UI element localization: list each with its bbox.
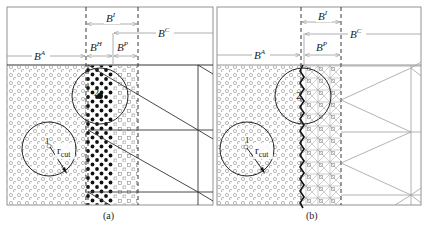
label-BP-b: BP	[316, 40, 328, 53]
panel-a: 2 1 rcut BI BC BA BH BP (a)	[7, 7, 213, 222]
caption-a: (a)	[103, 210, 114, 222]
panel-b: 2 1 rcut BI BC BA BP (b)	[217, 7, 421, 222]
atom1-label-a: 1	[45, 136, 50, 146]
label-BP-a: BP	[117, 40, 129, 53]
atom2-label-a: 2	[94, 87, 99, 98]
continuum-mesh-b	[341, 62, 421, 205]
pad-region-a	[113, 66, 138, 205]
atom1-label-b: 1	[245, 135, 250, 145]
handshake-region-a	[86, 66, 113, 205]
atom2-label-b: 2	[296, 90, 301, 101]
label-BH-a: BH	[90, 40, 103, 53]
caption-b: (b)	[306, 210, 318, 222]
multiscale-coupling-diagram: 2 1 rcut BI BC BA BH BP (a)	[0, 0, 428, 226]
pad-mesh-region-b	[303, 66, 341, 205]
atomistic-region-b	[218, 66, 302, 205]
